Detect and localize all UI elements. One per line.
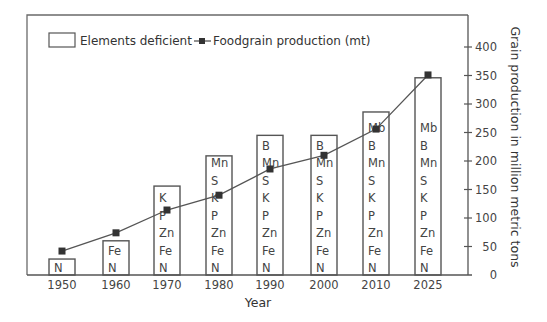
element-label: B <box>420 139 428 153</box>
element-label: Zn <box>262 226 277 240</box>
element-label: N <box>316 261 325 275</box>
element-label: Fe <box>211 244 224 258</box>
y-tick-label: 100 <box>475 211 497 225</box>
element-label: S <box>316 174 323 188</box>
y-tick-label: 400 <box>475 40 497 54</box>
bar-1960: NFe <box>103 241 129 275</box>
square-marker-icon <box>267 165 274 172</box>
element-label: B <box>262 139 270 153</box>
element-label: P <box>262 209 269 223</box>
bar-1950: N <box>49 259 75 275</box>
element-label: Zn <box>159 226 174 240</box>
element-label: K <box>316 191 324 205</box>
square-marker-icon <box>373 126 380 133</box>
legend-line-label: Foodgrain production (mt) <box>213 34 370 48</box>
element-label: S <box>368 174 375 188</box>
element-label: Fe <box>108 244 121 258</box>
y-axis-title: Grain production in million metric tons <box>508 26 523 267</box>
bar-1970: NFeZnPK <box>154 186 180 275</box>
x-tick-label: 1990 <box>255 278 284 292</box>
element-label: N <box>420 261 429 275</box>
element-label: Mb <box>420 121 437 135</box>
y-tick-label: 300 <box>475 97 497 111</box>
x-tick-label: 1970 <box>152 278 181 292</box>
legend-square-marker-icon <box>199 38 205 44</box>
y-tick-label: 50 <box>482 240 497 254</box>
x-tick-label: 2025 <box>413 278 442 292</box>
chart: NNFeNFeZnPKNFeZnPKSMnNFeZnPKSMnBNFeZnPKS… <box>0 0 547 322</box>
bar-series-elements-deficient: NNFeNFeZnPKNFeZnPKSMnNFeZnPKSMnBNFeZnPKS… <box>49 78 441 275</box>
legend-bar-label: Elements deficient <box>80 34 192 48</box>
element-label: N <box>159 261 168 275</box>
element-label: B <box>368 139 376 153</box>
element-label: Mn <box>420 156 437 170</box>
x-tick-label: 2000 <box>309 278 338 292</box>
x-tick-label: 1960 <box>101 278 130 292</box>
bar-2010: NFeZnPKSMnBMb <box>363 112 389 275</box>
square-marker-icon <box>113 229 120 236</box>
element-label: Zn <box>368 226 383 240</box>
element-label: S <box>262 174 269 188</box>
square-marker-icon <box>59 248 66 255</box>
element-label: Zn <box>420 226 435 240</box>
element-label: B <box>316 139 324 153</box>
element-label: Zn <box>211 226 226 240</box>
y-tick-label: 250 <box>475 126 497 140</box>
element-label: Mn <box>211 156 228 170</box>
legend-bar-swatch <box>49 33 75 47</box>
element-label: N <box>211 261 220 275</box>
bar-2025: NFeZnPKSMnBMb <box>415 78 441 275</box>
element-label: Fe <box>368 244 381 258</box>
element-label: P <box>316 209 323 223</box>
square-marker-icon <box>425 71 432 78</box>
y-tick-label: 200 <box>475 154 497 168</box>
square-marker-icon <box>321 152 328 159</box>
x-tick-label: 2010 <box>361 278 390 292</box>
square-marker-icon <box>164 207 171 214</box>
x-tick-label: 1950 <box>47 278 76 292</box>
y-tick-label: 150 <box>475 183 497 197</box>
y-tick-label: 0 <box>490 268 497 282</box>
legend: Elements deficient Foodgrain production … <box>49 33 370 48</box>
element-label: P <box>211 209 218 223</box>
element-label: Fe <box>420 244 433 258</box>
y-tick-label: 350 <box>475 69 497 83</box>
element-label: Fe <box>159 244 172 258</box>
element-label: K <box>159 191 167 205</box>
element-label: Fe <box>262 244 275 258</box>
element-label: Mn <box>368 156 385 170</box>
bar-1980: NFeZnPKSMn <box>206 156 232 275</box>
x-axis-title: Year <box>244 295 272 310</box>
element-label: Fe <box>316 244 329 258</box>
square-marker-icon <box>216 192 223 199</box>
element-label: K <box>368 191 376 205</box>
element-label: S <box>420 174 427 188</box>
plot-frame <box>27 15 468 275</box>
element-label: Zn <box>316 226 331 240</box>
y-axis-ticks: 050100150200250300350400 <box>464 40 497 282</box>
element-label: P <box>420 209 427 223</box>
element-label: K <box>420 191 428 205</box>
element-label: S <box>211 174 218 188</box>
element-label: N <box>368 261 377 275</box>
element-label: K <box>262 191 270 205</box>
x-axis-tick-labels: 19501960197019801990200020102025 <box>47 278 442 292</box>
x-tick-label: 1980 <box>204 278 233 292</box>
bar-1990: NFeZnPKSMnB <box>257 135 283 275</box>
element-label: N <box>54 261 63 275</box>
element-label: P <box>368 209 375 223</box>
element-label: N <box>108 261 117 275</box>
element-label: N <box>262 261 271 275</box>
